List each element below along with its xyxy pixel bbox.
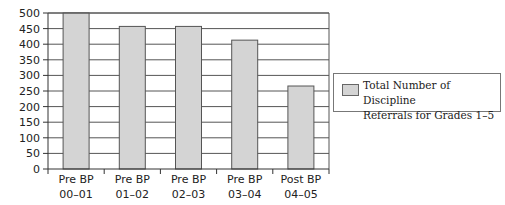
- y-tick-label: 300: [19, 69, 40, 82]
- legend-label-line1: Total Number of Discipline: [363, 78, 503, 108]
- x-tick-label: 04–05: [284, 188, 318, 201]
- y-tick-label: 400: [19, 38, 40, 51]
- legend: Total Number of Discipline Referrals for…: [333, 73, 501, 112]
- y-tick-label: 450: [19, 23, 40, 36]
- y-tick-label: 200: [19, 101, 40, 114]
- bar: [176, 26, 202, 169]
- y-tick-label: 350: [19, 54, 40, 67]
- bar: [232, 40, 258, 169]
- x-axis-labels: Pre BP00–01Pre BP01–02Pre BP02–03Pre BP0…: [48, 169, 329, 201]
- x-tick-label: Post BP: [281, 173, 322, 186]
- y-tick-label: 500: [19, 7, 40, 20]
- x-tick-label: Pre BP: [227, 173, 263, 186]
- x-tick-label: 02–03: [172, 188, 206, 201]
- x-tick-label: 00–01: [59, 188, 93, 201]
- x-tick-label: 01–02: [116, 188, 150, 201]
- y-tick-label: 150: [19, 116, 40, 129]
- legend-label: Total Number of Discipline Referrals for…: [363, 78, 503, 123]
- y-tick-label: 100: [19, 132, 40, 145]
- bar: [119, 26, 145, 169]
- x-tick-label: Pre BP: [171, 173, 207, 186]
- legend-swatch: [342, 84, 359, 96]
- x-tick-label: 03–04: [228, 188, 262, 201]
- bar: [288, 86, 314, 169]
- y-tick-label: 50: [26, 147, 40, 160]
- x-tick-label: Pre BP: [115, 173, 151, 186]
- x-tick-label: Pre BP: [59, 173, 95, 186]
- y-tick-label: 0: [33, 163, 40, 176]
- y-tick-label: 250: [19, 85, 40, 98]
- legend-label-line2: Referrals for Grades 1–5: [363, 108, 503, 123]
- bar: [63, 13, 89, 169]
- y-axis-ticks: 050100150200250300350400450500: [19, 7, 48, 176]
